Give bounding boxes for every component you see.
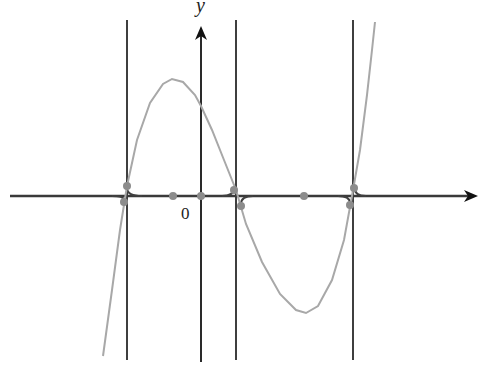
y-axis-label: y xyxy=(196,0,205,17)
vertical-lines xyxy=(127,20,353,360)
crossing-point xyxy=(346,201,354,209)
axes xyxy=(10,26,478,362)
crossing-point xyxy=(237,202,245,210)
axis-point xyxy=(169,192,177,200)
function-curve xyxy=(103,22,375,356)
crossing-point xyxy=(123,182,131,190)
origin-label: 0 xyxy=(181,204,190,224)
crossing-point xyxy=(230,186,238,194)
function-graph xyxy=(0,0,489,370)
axis-point xyxy=(197,192,205,200)
crossing-point xyxy=(120,198,128,206)
crossing-point xyxy=(350,184,358,192)
axis-point xyxy=(300,192,308,200)
